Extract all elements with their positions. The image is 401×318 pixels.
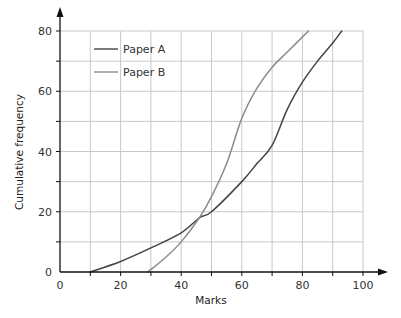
x-tick-label: 40 xyxy=(174,279,188,292)
y-tick-label: 0 xyxy=(45,266,52,279)
y-tick-label: 40 xyxy=(38,146,52,159)
y-tick-label: 20 xyxy=(38,206,52,219)
x-tick-label: 60 xyxy=(235,279,249,292)
x-axis-arrow-icon xyxy=(378,269,388,276)
x-tick-label: 0 xyxy=(57,279,64,292)
tick-marks xyxy=(56,31,363,276)
legend-label-paper-b: Paper B xyxy=(123,66,165,79)
y-tick-label: 60 xyxy=(38,85,52,98)
cumulative-frequency-chart: 020406080100020406080 Marks Cumulative f… xyxy=(0,0,401,318)
y-axis-title: Cumulative frequency xyxy=(13,94,25,210)
axes xyxy=(57,7,389,276)
x-tick-label: 100 xyxy=(353,279,374,292)
x-tick-label: 20 xyxy=(114,279,128,292)
y-tick-label: 80 xyxy=(38,25,52,38)
legend-label-paper-a: Paper A xyxy=(123,43,166,56)
tick-labels: 020406080100020406080 xyxy=(38,25,374,292)
x-axis-title: Marks xyxy=(195,294,226,306)
y-axis-arrow-icon xyxy=(57,7,64,17)
x-tick-label: 80 xyxy=(295,279,309,292)
grid-lines xyxy=(60,31,363,272)
